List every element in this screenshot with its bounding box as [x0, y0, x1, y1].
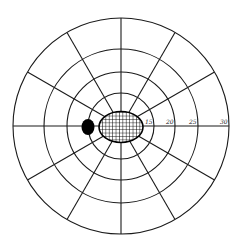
blind-spot: [82, 119, 95, 135]
scale-label: 15: [145, 118, 153, 125]
scale-label: 25: [188, 118, 197, 125]
scale-label: 20: [165, 118, 174, 125]
hatched-scotoma: [99, 112, 143, 143]
visual-field-chart: 15202530: [0, 0, 242, 246]
scale-labels: 15202530: [145, 118, 228, 125]
scale-label: 30: [220, 118, 228, 125]
